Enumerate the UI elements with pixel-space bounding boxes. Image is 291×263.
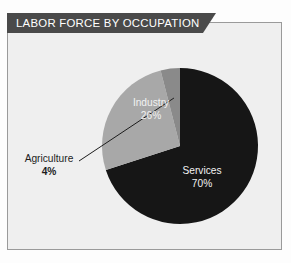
banner-angled-tail — [203, 13, 216, 33]
page-title: LABOR FORCE BY OCCUPATION — [16, 13, 199, 33]
chart-title-banner: LABOR FORCE BY OCCUPATION — [7, 13, 203, 33]
pie-label-industry-value: 26% — [113, 109, 189, 122]
pie-label-services-value: 70% — [164, 177, 240, 190]
pie-label-agriculture: Agriculture 4% — [3, 152, 95, 179]
pie-label-industry-name: Industry — [113, 96, 189, 109]
pie-label-industry: Industry 26% — [113, 96, 189, 123]
pie-chart-area: Industry 26% Services 70% Agriculture 4% — [7, 33, 282, 250]
pie-label-agriculture-value: 4% — [3, 165, 95, 178]
pie-label-services-name: Services — [164, 164, 240, 177]
pie-label-services: Services 70% — [164, 164, 240, 191]
pie-chart-svg — [7, 33, 282, 250]
chart-figure: LABOR FORCE BY OCCUPATION Industry 26% S… — [0, 0, 291, 263]
pie-label-agriculture-name: Agriculture — [3, 152, 95, 165]
